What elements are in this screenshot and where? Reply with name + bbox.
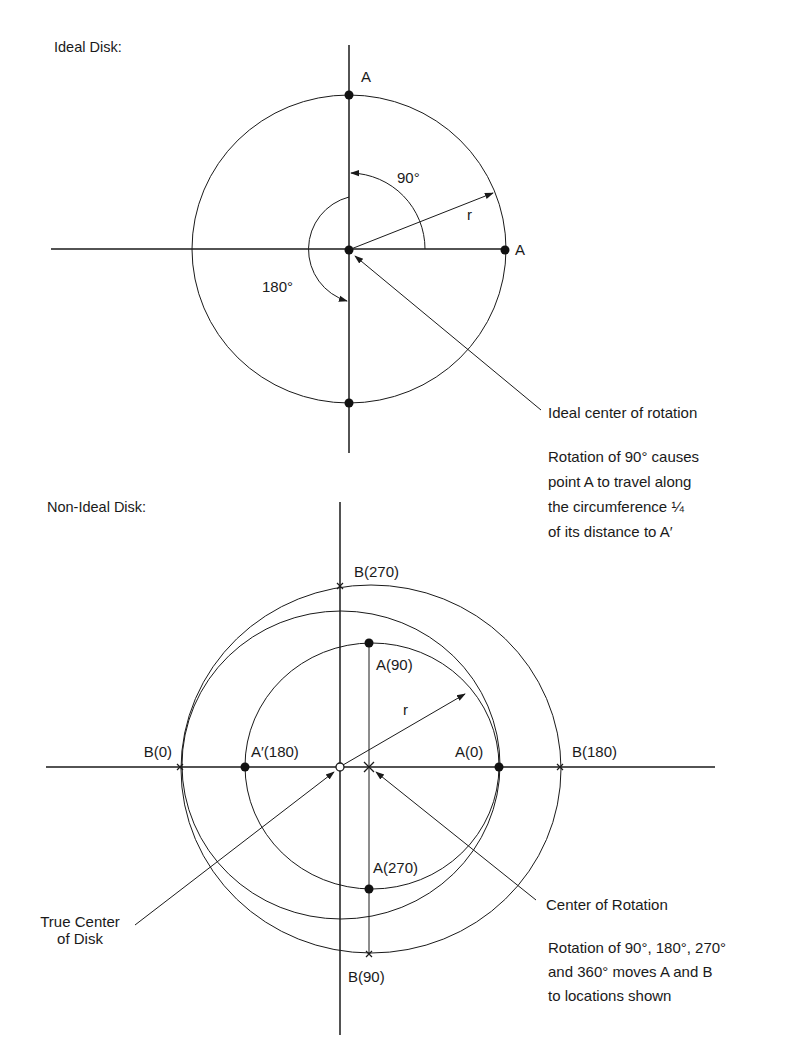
- ideal-label-180: 180°: [262, 278, 293, 295]
- label-a-90: A(90): [376, 656, 413, 673]
- ideal-note-line: point A to travel along: [548, 473, 691, 490]
- a-path-circle: [245, 643, 499, 889]
- diagram-canvas: Ideal Disk: A A r 90° 180° Ideal center …: [0, 0, 811, 1062]
- ideal-disk-diagram: Ideal Disk: A A r 90° 180° Ideal center …: [51, 39, 699, 540]
- nonideal-note-line: Rotation of 90°, 180°, 270°: [548, 939, 726, 956]
- ideal-note-line: of its distance to A′: [548, 523, 673, 540]
- nonideal-disk-diagram: Non-Ideal Disk: r B(270) A(90): [40, 499, 726, 1035]
- ideal-center-point: [345, 246, 354, 255]
- point-a-270: [365, 885, 374, 894]
- label-b-270: B(270): [354, 563, 399, 580]
- rotation-center-label: Center of Rotation: [546, 896, 668, 913]
- point-a-90: [365, 639, 374, 648]
- ideal-note: Rotation of 90° causes point A to travel…: [548, 448, 699, 540]
- ideal-disk-heading: Ideal Disk:: [54, 39, 122, 55]
- nonideal-note-line: and 360° moves A and B: [548, 963, 712, 980]
- rotation-center-callout-line: [376, 772, 536, 900]
- ideal-point-bottom: [345, 399, 354, 408]
- nonideal-note: Rotation of 90°, 180°, 270° and 360° mov…: [548, 939, 726, 1004]
- label-a-0: A(0): [455, 743, 483, 760]
- nonideal-label-r: r: [403, 701, 408, 718]
- ideal-note-line: Rotation of 90° causes: [548, 448, 699, 465]
- true-center-label-line1: True Center: [40, 913, 119, 930]
- ideal-center-callout-line: [355, 256, 541, 410]
- label-b-180: B(180): [572, 743, 617, 760]
- label-b-0: B(0): [144, 743, 172, 760]
- true-center-open-circle: [336, 763, 344, 771]
- label-a-270: A(270): [373, 859, 418, 876]
- nonideal-note-line: to locations shown: [548, 987, 671, 1004]
- true-center-label-line2: of Disk: [57, 930, 103, 947]
- ideal-label-90: 90°: [397, 169, 420, 186]
- ideal-point-a-top: [345, 91, 354, 100]
- point-a-prime-180: [241, 763, 250, 772]
- ideal-note-line: the circumference ¼: [548, 498, 684, 515]
- ideal-point-a-right: [501, 246, 510, 255]
- ideal-label-a-top: A: [361, 68, 371, 85]
- label-a-prime-180: A′(180): [251, 743, 299, 760]
- point-a-0: [495, 763, 504, 772]
- true-center-callout-line: [135, 772, 334, 925]
- ideal-label-a-right: A: [515, 241, 525, 258]
- ideal-center-callout: Ideal center of rotation: [548, 404, 697, 421]
- ideal-label-r: r: [467, 206, 472, 223]
- nonideal-disk-heading: Non-Ideal Disk:: [47, 499, 146, 515]
- label-b-90: B(90): [348, 968, 385, 985]
